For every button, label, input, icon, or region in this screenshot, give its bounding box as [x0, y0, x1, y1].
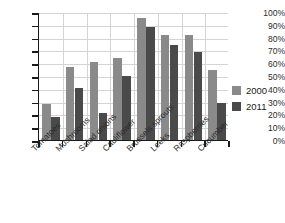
legend-label: 2011 — [246, 102, 266, 111]
bar-2011-leeks — [170, 45, 179, 140]
bar-chart: 100%90%80%70%60%50%40%30%20%10%0% Tomato… — [0, 0, 285, 223]
x-axis-tick-mark — [38, 141, 40, 147]
y-axis-tick-label: 10% — [251, 124, 285, 132]
x-axis-tick-mark — [228, 141, 230, 147]
bar-group — [39, 13, 63, 140]
legend-label: 2000 — [246, 86, 267, 95]
y-axis-tick-label: 90% — [251, 22, 285, 30]
legend-item[interactable]: 2011 — [232, 100, 267, 113]
bar-2000-leeks — [161, 35, 170, 140]
bar-2000-brussels-sprouts — [137, 18, 146, 140]
y-axis-tick-label: 60% — [251, 60, 285, 68]
legend-swatch-icon — [232, 102, 241, 111]
legend-item[interactable]: 2000 — [232, 84, 267, 97]
y-axis-tick-label: 100% — [251, 9, 285, 17]
y-axis-tick-label: 50% — [251, 73, 285, 81]
y-axis-tick-label: 80% — [251, 35, 285, 43]
legend-swatch-icon — [232, 86, 241, 95]
y-axis-tick-label: 70% — [251, 47, 285, 55]
chart-legend: 20002011 — [232, 84, 267, 116]
y-axis-tick-label: 0% — [251, 137, 285, 145]
